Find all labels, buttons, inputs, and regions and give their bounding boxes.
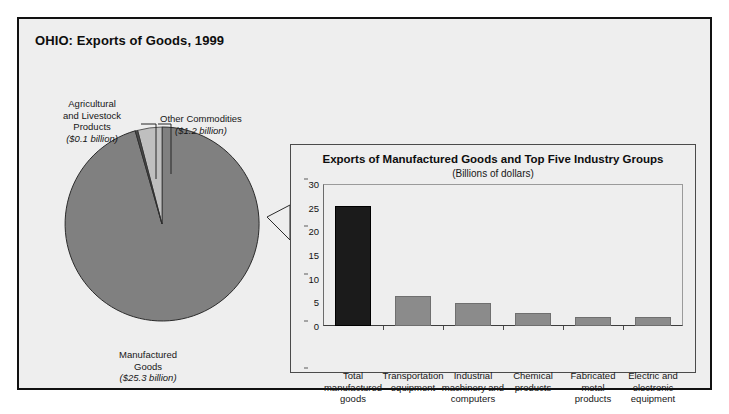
- bar-4: [515, 313, 551, 326]
- pie-label-manufactured-amount: ($25.3 billion): [119, 372, 177, 384]
- x-axis-category-label-line: Fabricated: [571, 370, 616, 381]
- pie-label-other-line1: Other Commodities: [160, 113, 242, 124]
- x-axis-tick-mark: [443, 326, 444, 330]
- bar-6: [635, 317, 671, 326]
- x-axis-category-label-line: Chemical: [513, 370, 553, 381]
- pie-label-other-commodities: Other Commodities ($1.2 billion): [160, 113, 242, 136]
- bar-5: [575, 317, 611, 326]
- y-axis-tick-label: 20: [308, 226, 319, 237]
- x-axis-category-label: Electric andelectronicequipment: [616, 370, 690, 405]
- x-axis-category-label-line: equipment: [631, 393, 675, 404]
- y-axis-tick-label: 0: [314, 321, 319, 332]
- plot-frame: [323, 184, 683, 326]
- x-axis-category-label-line: Transportation: [383, 370, 444, 381]
- x-axis-category-label-line: machinery and: [442, 382, 504, 393]
- x-axis-category-label-line: Total: [343, 370, 363, 381]
- y-axis-tick-label: 5: [314, 297, 319, 308]
- y-axis-tick-mark: [304, 273, 308, 274]
- x-axis-category-label-line: electronic: [633, 382, 674, 393]
- x-axis-category-label-line: computers: [451, 393, 495, 404]
- pie-label-other-amount: ($1.2 billion): [160, 125, 242, 137]
- y-axis-tick-mark: [304, 321, 308, 322]
- x-axis-category-label-line: manufactured: [324, 382, 382, 393]
- pie-label-manufactured: Manufactured Goods ($25.3 billion): [119, 349, 177, 384]
- inset-chart-subtitle: (Billions of dollars): [291, 168, 695, 179]
- bar-3: [455, 303, 491, 326]
- pie-label-agricultural-amount: ($0.1 billion): [63, 133, 121, 145]
- bar-2: [395, 296, 431, 326]
- y-axis-tick-mark: [304, 179, 308, 180]
- pie-label-agricultural-line2: and Livestock: [63, 110, 121, 121]
- x-axis-tick-mark: [383, 326, 384, 330]
- x-axis-category-label-line: equipment: [391, 382, 435, 393]
- y-axis-tick-label: 25: [308, 202, 319, 213]
- bar-1: [335, 206, 371, 326]
- x-axis-tick-mark: [623, 326, 624, 330]
- y-axis-tick-label: 15: [308, 250, 319, 261]
- y-axis-tick-label: 10: [308, 273, 319, 284]
- bar-chart-plot-area: 051015202530TotalmanufacturedgoodsTransp…: [323, 184, 683, 326]
- pie-label-agricultural-line1: Agricultural: [68, 98, 116, 109]
- pie-label-manufactured-line2: Goods: [134, 361, 162, 372]
- y-axis-tick-mark: [304, 226, 308, 227]
- x-axis-category-label-line: Electric and: [628, 370, 678, 381]
- x-axis-category-label-line: goods: [340, 393, 366, 404]
- pie-label-manufactured-line1: Manufactured: [119, 349, 177, 360]
- inset-bar-chart-panel: Exports of Manufactured Goods and Top Fi…: [290, 144, 696, 373]
- inset-chart-title: Exports of Manufactured Goods and Top Fi…: [291, 153, 695, 165]
- y-axis-tick-label: 30: [308, 179, 319, 190]
- x-axis-category-label-line: metal: [581, 382, 604, 393]
- pie-label-agricultural-line3: Products: [73, 121, 111, 132]
- figure-panel: OHIO: Exports of Goods, 1999 Agricultura…: [17, 17, 712, 390]
- x-axis-tick-mark: [503, 326, 504, 330]
- pie-label-agricultural: Agricultural and Livestock Products ($0.…: [63, 98, 121, 144]
- y-axis-tick-mark: [304, 368, 308, 369]
- x-axis-category-label-line: products: [515, 382, 551, 393]
- x-axis-category-label-line: Industrial: [454, 370, 493, 381]
- x-axis-category-label-line: products: [575, 393, 611, 404]
- x-axis-tick-mark: [563, 326, 564, 330]
